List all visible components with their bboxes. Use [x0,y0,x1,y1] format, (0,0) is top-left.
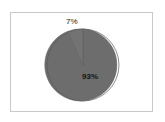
figure-root: 7% 93% [0,0,165,122]
pie-chart [0,0,165,122]
slice-label-small: 7% [66,17,78,26]
slice-label-large: 93% [82,72,98,81]
